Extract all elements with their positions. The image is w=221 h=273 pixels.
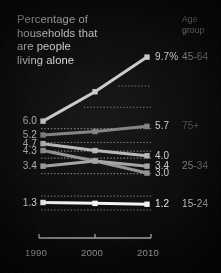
series-start-value-label: 4.3 xyxy=(23,146,37,156)
series-end-value-label: 3.4 xyxy=(155,161,169,171)
series-end-value-label: 1.2 xyxy=(155,199,169,209)
x-axis-tick-label: 1990 xyxy=(25,247,47,258)
series-start-value-label: 6.0 xyxy=(23,116,37,126)
data-point-marker xyxy=(40,200,45,205)
data-point-marker xyxy=(144,153,149,158)
series-end-value-label: 9.7% xyxy=(155,52,178,62)
data-point-marker xyxy=(40,163,45,168)
data-point-marker xyxy=(40,148,45,153)
x-axis-tick-label: 2000 xyxy=(81,247,103,258)
data-point-marker xyxy=(92,148,97,153)
data-point-marker xyxy=(40,118,45,123)
data-point-marker xyxy=(144,124,149,129)
data-point-marker xyxy=(92,89,97,94)
x-axis-tick-label: 2010 xyxy=(137,247,159,258)
data-point-marker xyxy=(144,163,149,168)
legend-age-group-label: 15-24 xyxy=(182,199,208,209)
data-point-marker xyxy=(40,141,45,146)
legend-age-group-label: 45-64 xyxy=(182,52,208,62)
chart-screenshot: Percentage of households that are people… xyxy=(0,0,221,273)
legend-age-group-label: 75+ xyxy=(182,121,199,131)
data-point-marker xyxy=(92,129,97,134)
series-end-value-label: 5.7 xyxy=(155,121,169,131)
data-point-marker xyxy=(92,158,97,163)
series-start-value-label: 3.4 xyxy=(23,161,37,171)
data-point-marker xyxy=(144,170,149,175)
data-point-marker xyxy=(144,202,149,207)
data-point-marker xyxy=(144,54,149,59)
data-point-marker xyxy=(40,132,45,137)
legend-age-group-label: 25-34 xyxy=(182,161,208,171)
series-start-value-label: 1.3 xyxy=(23,198,37,208)
data-point-marker xyxy=(92,201,97,206)
